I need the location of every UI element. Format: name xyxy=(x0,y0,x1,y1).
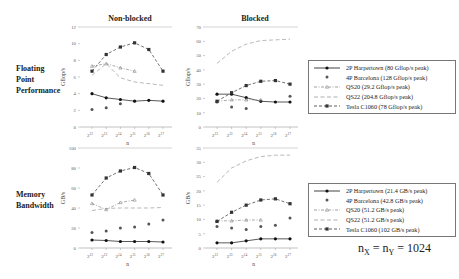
svg-text:n: n xyxy=(252,140,255,146)
svg-text:215: 215 xyxy=(256,253,262,260)
formula-value: = 1024 xyxy=(397,241,431,255)
legend-symbol-icon xyxy=(312,206,342,214)
svg-text:20: 20 xyxy=(71,226,76,231)
svg-text:GB/s: GB/s xyxy=(60,191,66,204)
svg-text:70: 70 xyxy=(196,25,201,30)
svg-text:217: 217 xyxy=(285,253,291,260)
svg-text:20: 20 xyxy=(196,189,201,194)
svg-text:213: 213 xyxy=(101,132,107,139)
formula-ny: nY xyxy=(383,241,395,255)
legend-item: 2P Harpertown (21.4 GB/s peak) xyxy=(312,186,452,196)
legend-symbol-icon xyxy=(312,216,342,224)
svg-text:25: 25 xyxy=(196,174,201,179)
legend-label: QS20 (29.2 Gflop/s peak) xyxy=(346,83,410,90)
legend-symbol-icon xyxy=(312,187,342,195)
svg-text:10: 10 xyxy=(196,111,201,116)
svg-text:214: 214 xyxy=(241,132,247,139)
svg-text:213: 213 xyxy=(101,253,107,260)
svg-text:213: 213 xyxy=(227,132,233,139)
svg-text:10: 10 xyxy=(71,41,76,46)
svg-text:0: 0 xyxy=(74,125,77,130)
formula-nx: nX xyxy=(358,241,370,255)
legend-item: QS20 (51.2 GB/s peak) xyxy=(312,205,452,215)
svg-text:0: 0 xyxy=(74,246,77,251)
plot-4: 05101520253035212213214215216217nGB/s xyxy=(185,146,298,267)
legend-label: QS20 (51.2 GB/s peak) xyxy=(346,206,404,213)
svg-text:4: 4 xyxy=(74,91,77,96)
legend-symbol-icon xyxy=(312,83,342,91)
legend-item: QS22 (51.2 GB/s peak) xyxy=(312,215,452,225)
svg-text:212: 212 xyxy=(212,253,218,260)
svg-text:n: n xyxy=(126,140,129,146)
svg-text:216: 216 xyxy=(270,132,276,139)
legend-symbol-icon xyxy=(312,93,342,101)
legend-label: 2P Harpertown (21.4 GB/s peak) xyxy=(346,187,427,194)
svg-text:60: 60 xyxy=(196,39,201,44)
legend-item: Tesla C1060 (102 GB/s peak) xyxy=(312,224,452,234)
legend-item: 2P Harpertown (80 Gflop/s peak) xyxy=(312,63,452,73)
svg-text:8: 8 xyxy=(74,58,77,63)
svg-text:30: 30 xyxy=(196,160,201,165)
svg-text:35: 35 xyxy=(196,146,201,151)
charts-canvas: 024681012212213214215216217nGflop/s01020… xyxy=(0,0,459,279)
legend-label: QS22 (204.8 Gflop/s peak) xyxy=(346,93,413,100)
legend-symbol-icon xyxy=(312,73,342,81)
legend-symbol-icon xyxy=(312,102,342,110)
legend-item: 4P Barcelona (42.8 GB/s peak) xyxy=(312,196,452,206)
svg-text:GB/s: GB/s xyxy=(185,191,191,204)
plot-2: 010203040506070212213214215216217nGflop/… xyxy=(185,25,298,146)
svg-text:Gflop/s: Gflop/s xyxy=(185,67,191,86)
svg-text:15: 15 xyxy=(196,203,201,208)
svg-text:215: 215 xyxy=(130,253,136,260)
svg-text:217: 217 xyxy=(158,253,164,260)
svg-text:60: 60 xyxy=(71,186,76,191)
legend-item: QS20 (29.2 Gflop/s peak) xyxy=(312,82,452,92)
svg-text:215: 215 xyxy=(256,132,262,139)
legend-floating-point: 2P Harpertown (80 Gflop/s peak)4P Barcel… xyxy=(308,60,456,114)
svg-text:213: 213 xyxy=(227,253,233,260)
legend-item: 4P Barcelona (128 Gflop/s peak) xyxy=(312,73,452,83)
svg-text:214: 214 xyxy=(115,253,121,260)
legend-label: 4P Barcelona (128 Gflop/s peak) xyxy=(346,74,427,81)
legend-item: QS22 (204.8 Gflop/s peak) xyxy=(312,92,452,102)
svg-text:Gflop/s: Gflop/s xyxy=(60,67,66,86)
svg-text:212: 212 xyxy=(87,253,93,260)
matrix-size-formula: nX = nY = 1024 xyxy=(358,241,431,257)
svg-text:n: n xyxy=(252,261,255,267)
legend-symbol-icon xyxy=(312,196,342,204)
legend-item: Tesla C1060 (78 Gflop/s peak) xyxy=(312,101,452,111)
svg-text:2: 2 xyxy=(74,108,77,113)
svg-text:0: 0 xyxy=(199,125,202,130)
svg-text:10: 10 xyxy=(196,217,201,222)
legend-label: QS22 (51.2 GB/s peak) xyxy=(346,216,404,223)
formula-eq: = xyxy=(373,241,380,255)
legend-symbol-icon xyxy=(312,64,342,72)
svg-text:214: 214 xyxy=(241,253,247,260)
svg-text:215: 215 xyxy=(130,132,136,139)
svg-text:50: 50 xyxy=(196,53,201,58)
svg-text:20: 20 xyxy=(196,96,201,101)
svg-text:6: 6 xyxy=(74,75,77,80)
legend-memory-bandwidth: 2P Harpertown (21.4 GB/s peak)4P Barcelo… xyxy=(308,183,456,237)
svg-text:214: 214 xyxy=(115,132,121,139)
svg-text:216: 216 xyxy=(144,253,150,260)
svg-text:212: 212 xyxy=(87,132,93,139)
svg-text:100: 100 xyxy=(69,146,77,151)
svg-text:n: n xyxy=(126,261,129,267)
svg-text:217: 217 xyxy=(158,132,164,139)
svg-text:5: 5 xyxy=(199,232,202,237)
svg-text:216: 216 xyxy=(270,253,276,260)
svg-text:12: 12 xyxy=(71,25,76,30)
svg-text:40: 40 xyxy=(71,206,76,211)
legend-label: Tesla C1060 (78 Gflop/s peak) xyxy=(346,103,422,110)
legend-symbol-icon xyxy=(312,225,342,233)
legend-label: 4P Barcelona (42.8 GB/s peak) xyxy=(346,197,423,204)
svg-text:80: 80 xyxy=(71,166,76,171)
svg-text:30: 30 xyxy=(196,82,201,87)
svg-text:40: 40 xyxy=(196,68,201,73)
svg-text:217: 217 xyxy=(285,132,291,139)
legend-label: Tesla C1060 (102 GB/s peak) xyxy=(346,226,419,233)
plot-1: 024681012212213214215216217nGflop/s xyxy=(60,25,172,146)
svg-text:212: 212 xyxy=(212,132,218,139)
plot-3: 020406080100212213214215216217nGB/s xyxy=(60,146,172,267)
